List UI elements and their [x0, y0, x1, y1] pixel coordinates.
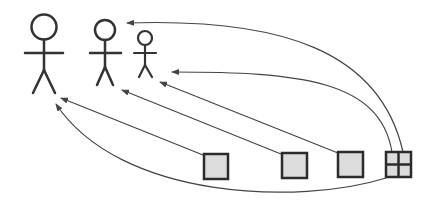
arrow-box1-to-actor-large: [61, 98, 203, 155]
component-box-3: [338, 152, 363, 177]
actor-head-icon: [138, 31, 152, 45]
actor-head-icon: [95, 20, 115, 40]
component-box-1: [204, 154, 228, 179]
component-box-4-grid: [386, 152, 411, 177]
arrow-box3-to-actor-small: [160, 82, 338, 153]
diagram-canvas: [0, 0, 433, 200]
actor-large: [25, 15, 63, 94]
arrow-box4-to-actor-medium: [127, 23, 403, 152]
arrow-box4-to-actor-small: [172, 72, 392, 152]
actor-head-icon: [32, 15, 57, 40]
arrow-box2-to-actor-medium: [122, 90, 281, 154]
actor-small: [134, 31, 156, 77]
actor-medium: [90, 20, 121, 85]
component-box-2: [282, 153, 307, 178]
